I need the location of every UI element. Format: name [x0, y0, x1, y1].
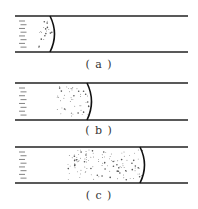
particle-dot: [116, 164, 118, 166]
particle-dot: [68, 88, 69, 89]
particle-dot: [88, 106, 90, 108]
particle-dot: [80, 151, 82, 153]
particle-dot: [80, 158, 81, 159]
particle-dot: [47, 27, 49, 29]
particle-dot: [85, 154, 87, 156]
particle-dot: [43, 39, 44, 40]
particle-dot: [39, 45, 40, 46]
particle-dot: [86, 102, 87, 103]
particle-dot: [135, 168, 136, 169]
particle-dot: [45, 28, 47, 30]
particle-dot: [74, 154, 75, 155]
particle-dot: [121, 159, 123, 161]
particle-dot: [111, 154, 112, 155]
particle-dot: [134, 153, 135, 154]
particle-dot: [60, 100, 61, 101]
particle-dot: [77, 88, 78, 89]
particle-dot: [84, 161, 86, 163]
particle-dot: [98, 176, 99, 177]
particle-dot: [64, 95, 65, 96]
particle-dot: [77, 112, 79, 114]
particle-dot: [79, 160, 80, 161]
particle-dot: [139, 174, 140, 175]
particle-dot: [102, 163, 103, 164]
particle-dot: [60, 113, 61, 114]
particle-dot: [38, 46, 40, 48]
particle-dot: [87, 96, 88, 97]
particle-dot: [85, 93, 87, 95]
particle-dot: [131, 169, 133, 171]
particle-dot: [125, 170, 127, 172]
particle-dot: [83, 111, 85, 113]
particle-dot: [81, 170, 82, 171]
particle-dot: [85, 171, 86, 172]
particle-dot: [77, 159, 78, 160]
particle-dot: [112, 161, 114, 163]
particle-dot: [117, 160, 118, 161]
particle-dot: [45, 33, 47, 35]
panel-label-b: ( b ): [69, 124, 129, 137]
particle-dot: [93, 157, 94, 158]
particle-dot: [69, 173, 70, 174]
particle-dot: [71, 97, 72, 98]
particle-dot: [92, 150, 94, 152]
particle-dot: [76, 157, 77, 158]
particle-dot: [87, 101, 89, 103]
particle-dot: [84, 159, 85, 160]
particle-dot: [123, 165, 124, 166]
particle-dot: [84, 167, 85, 168]
particle-dot: [130, 178, 131, 179]
particle-dot: [48, 29, 49, 30]
meniscus-c: [140, 147, 145, 183]
particle-dot: [93, 179, 94, 180]
particle-dot: [102, 165, 103, 166]
particle-dot: [80, 105, 81, 106]
particle-dot: [80, 94, 81, 95]
panel-label-c: ( c ): [69, 189, 129, 202]
particle-dot: [57, 97, 58, 98]
particle-dot: [86, 162, 87, 163]
particle-dot: [73, 95, 75, 97]
particle-dot: [89, 150, 90, 151]
particle-dot: [86, 157, 87, 158]
particle-dot: [73, 114, 74, 115]
particle-dot: [40, 38, 42, 40]
particle-dot: [129, 155, 130, 156]
particle-dot: [72, 88, 73, 89]
particle-dot: [135, 170, 136, 171]
particle-dot: [64, 108, 66, 110]
particle-dot: [121, 153, 122, 154]
particle-dot: [137, 167, 139, 169]
particle-dot: [109, 177, 111, 179]
particle-dot: [46, 22, 48, 24]
particle-dot: [74, 160, 76, 162]
particle-dot: [105, 152, 106, 153]
particle-dot: [47, 21, 48, 22]
particle-dot: [102, 157, 103, 158]
particle-dot: [118, 167, 120, 169]
particle-dot: [69, 155, 70, 156]
particle-dot: [138, 150, 139, 151]
particle-dot: [125, 179, 127, 181]
particle-dot: [71, 116, 72, 117]
particle-dot: [82, 114, 83, 115]
particle-dot: [41, 32, 42, 33]
particle-dot: [75, 167, 76, 168]
particle-dot: [70, 166, 71, 167]
particle-dot: [69, 91, 70, 92]
particle-dot: [71, 113, 72, 114]
particle-dot: [124, 156, 125, 157]
particle-dot: [76, 159, 78, 161]
particle-dot: [86, 168, 87, 169]
particle-dot: [122, 163, 123, 164]
particle-dot: [93, 153, 94, 154]
particle-dot: [123, 175, 124, 176]
particle-dot: [139, 176, 141, 178]
particle-dot: [79, 177, 80, 178]
particle-dot: [92, 166, 93, 167]
meniscus-a: [50, 16, 55, 52]
particle-dot: [50, 32, 52, 34]
particle-dot: [133, 160, 135, 162]
particle-dot: [74, 159, 75, 160]
particle-dot: [124, 152, 125, 153]
